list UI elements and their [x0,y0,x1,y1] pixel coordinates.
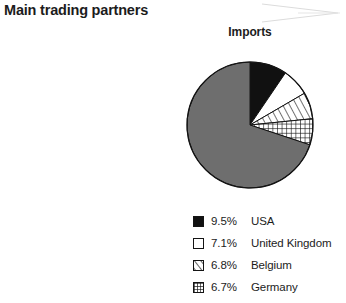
page-root: Main trading partners Imports [0,0,346,303]
legend-item-germany: 6.7% Germany [193,276,343,298]
legend-label-united-kingdom: United Kingdom [251,237,331,249]
legend-swatch-belgium [193,260,204,271]
legend-label-usa: USA [251,215,274,227]
legend-swatch-germany [193,282,204,293]
legend-percent-belgium: 6.8% [211,259,251,271]
legend-percent-united-kingdom: 7.1% [211,237,251,249]
legend-item-belgium: 6.8% Belgium [193,254,343,276]
legend-percent-germany: 6.7% [211,281,251,293]
pie-graphic [185,50,315,202]
legend-swatch-usa [193,216,204,227]
legend-item-usa: 9.5% USA [193,210,343,232]
legend-label-belgium: Belgium [251,259,292,271]
legend-item-united-kingdom: 7.1% United Kingdom [193,232,343,254]
chart-subtitle: Imports [150,25,346,39]
legend-percent-usa: 9.5% [211,215,251,227]
pie-chart: Imports [0,0,346,303]
chart-legend: 9.5% USA 7.1% United Kingdom 6.8% Belgiu… [193,210,343,298]
legend-label-germany: Germany [251,281,298,293]
pie-svg [185,50,315,202]
legend-swatch-united-kingdom [193,238,204,249]
